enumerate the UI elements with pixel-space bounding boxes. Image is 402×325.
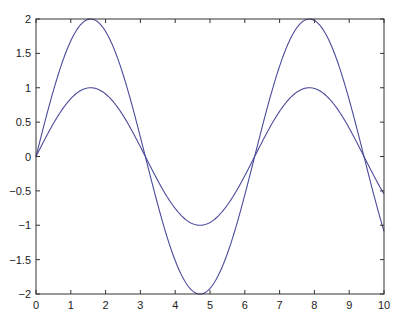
y-tick-label: 0.5 — [16, 116, 31, 128]
y-tick-label: −0.5 — [9, 185, 31, 197]
x-tick-label: 7 — [277, 299, 283, 311]
y-tick-label: 0 — [25, 151, 31, 163]
x-tick-label: 2 — [103, 299, 109, 311]
plot-area-frame — [36, 19, 384, 294]
series-line-1 — [36, 19, 384, 294]
x-tick-label: 0 — [33, 299, 39, 311]
x-tick-label: 6 — [242, 299, 248, 311]
series-layer — [36, 19, 384, 294]
x-tick-label: 5 — [207, 299, 213, 311]
y-tick-label: −2 — [18, 288, 31, 300]
line-chart: 01234567891021.510.50−0.5−1−1.5−2 — [0, 0, 402, 325]
x-tick-label: 8 — [311, 299, 317, 311]
x-tick-label: 1 — [68, 299, 74, 311]
axis-ticks: 01234567891021.510.50−0.5−1−1.5−2 — [9, 13, 390, 311]
y-tick-label: −1.5 — [9, 254, 31, 266]
series-line-0 — [36, 88, 384, 225]
x-tick-label: 10 — [378, 299, 390, 311]
y-tick-label: 1 — [25, 82, 31, 94]
x-tick-label: 3 — [137, 299, 143, 311]
x-tick-label: 4 — [172, 299, 178, 311]
y-tick-label: 2 — [25, 13, 31, 25]
x-tick-label: 9 — [346, 299, 352, 311]
y-tick-label: 1.5 — [16, 47, 31, 59]
y-tick-label: −1 — [18, 219, 31, 231]
